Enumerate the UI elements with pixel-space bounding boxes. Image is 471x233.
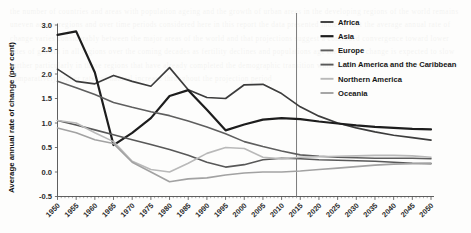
- y-tick-label: 3.0: [41, 21, 52, 30]
- x-tick-label: 1975: [137, 201, 155, 219]
- y-tick-label: -0.5: [39, 192, 53, 201]
- x-tick-label: 2010: [268, 201, 286, 219]
- x-tick-label: 2030: [343, 201, 361, 219]
- x-tick-label: 1960: [81, 201, 99, 219]
- y-tick-label: 1.0: [41, 119, 52, 128]
- legend-label-1: Asia: [338, 32, 355, 41]
- x-tick-label: 1980: [156, 201, 174, 219]
- x-tick-label: 1985: [175, 201, 193, 219]
- x-tick-label: 2025: [324, 201, 342, 219]
- x-tick-label: 1965: [100, 201, 118, 219]
- legend-label-4: Northern America: [338, 75, 403, 84]
- x-tick-label: 2015: [287, 201, 305, 219]
- x-tick-label: 1995: [212, 201, 230, 219]
- chart-legend: AfricaAsiaEuropeLatin America and the Ca…: [321, 18, 457, 98]
- x-tick-label: 1950: [44, 201, 62, 219]
- legend-label-3: Latin America and the Caribbean: [338, 60, 457, 69]
- x-tick-label: 1990: [193, 201, 211, 219]
- x-tick-label: 2040: [380, 201, 398, 219]
- x-tick-label: 2035: [361, 201, 379, 219]
- y-axis-tick-labels: 3.02.52.01.51.00.50.0-0.5: [39, 21, 53, 202]
- data-series-group: [58, 31, 432, 181]
- y-tick-label: 2.0: [41, 70, 52, 79]
- x-tick-label: 1970: [119, 201, 137, 219]
- y-tick-label: 0.5: [41, 143, 52, 152]
- y-tick-label: 0.0: [41, 168, 52, 177]
- y-tick-label: 1.5: [41, 94, 52, 103]
- x-tick-label: 2045: [399, 201, 417, 219]
- chart-page: the number of countries and areas with p…: [0, 0, 471, 233]
- legend-label-0: Africa: [338, 18, 360, 27]
- x-tick-label: 2000: [231, 201, 249, 219]
- x-axis-tick-labels: 1950195519601965197019751980198519901995…: [44, 201, 435, 219]
- series-line-asia: [58, 31, 432, 145]
- y-axis-title: Average annual rate of change (per cent): [7, 42, 16, 193]
- x-tick-label: 2005: [249, 201, 267, 219]
- x-axis-tick-marks: [58, 197, 432, 200]
- x-tick-label: 1955: [63, 201, 81, 219]
- y-tick-label: 2.5: [41, 45, 52, 54]
- series-line-europe: [58, 81, 432, 158]
- legend-label-5: Oceania: [338, 89, 368, 98]
- x-tick-label: 2050: [417, 201, 435, 219]
- legend-label-2: Europe: [338, 46, 364, 55]
- y-axis-title-group: Average annual rate of change (per cent): [7, 42, 16, 193]
- average-annual-rate-of-change-line-chart: Average annual rate of change (per cent)…: [0, 0, 471, 233]
- x-tick-label: 2020: [305, 201, 323, 219]
